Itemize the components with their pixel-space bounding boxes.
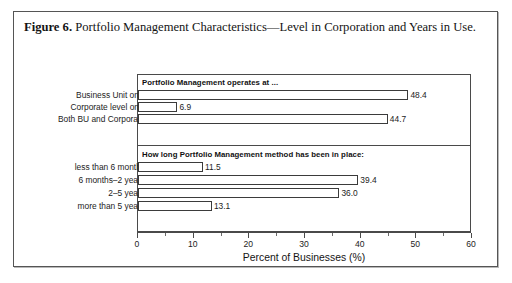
x-axis-tick-label: 30	[299, 239, 309, 250]
figure-caption-text: Portfolio Management Characteristics—Lev…	[72, 20, 476, 34]
x-axis-title: Percent of Businesses (%)	[137, 252, 471, 263]
x-axis-tick-label: 10	[188, 239, 198, 250]
x-axis-tick-major	[415, 233, 416, 238]
figure-frame: Figure 6. Portfolio Management Character…	[13, 11, 498, 267]
bar-value-label: 6.9	[179, 102, 191, 112]
x-axis-tick-label: 50	[411, 239, 421, 250]
bar	[138, 175, 358, 185]
category-label: Corporate level only	[0, 102, 145, 112]
category-label: Business Unit only	[0, 90, 145, 100]
bar	[138, 162, 203, 172]
figure-number: Figure 6.	[24, 20, 72, 34]
bar	[138, 201, 212, 211]
x-axis-tick-major	[137, 233, 138, 238]
x-axis-tick-major	[248, 233, 249, 238]
bar-value-label: 48.4	[410, 90, 426, 100]
bar-chart: Portfolio Management operates at ... How…	[14, 50, 499, 266]
bar-value-label: 36.0	[341, 188, 357, 198]
bar-value-label: 39.4	[360, 175, 376, 185]
x-axis-tick-minor	[165, 233, 166, 236]
x-axis-tick-label: 40	[355, 239, 365, 250]
bar-value-label: 13.1	[214, 201, 230, 211]
category-label: Both BU and Corporate	[0, 114, 145, 124]
category-label: 6 months–2 years	[0, 175, 145, 185]
x-axis-tick-major	[360, 233, 361, 238]
category-label: less than 6 months	[0, 162, 145, 172]
bar	[138, 102, 177, 112]
bar	[138, 114, 388, 124]
x-axis-tick-label: 20	[244, 239, 254, 250]
x-axis-tick-major	[193, 233, 194, 238]
x-axis-tick-label: 60	[466, 239, 476, 250]
bar	[138, 188, 339, 198]
x-axis-tick-minor	[388, 233, 389, 236]
x-axis-tick-minor	[276, 233, 277, 236]
x-axis-tick-minor	[221, 233, 222, 236]
panel-heading-duration: How long Portfolio Management method has…	[142, 150, 364, 159]
x-axis-tick-minor	[332, 233, 333, 236]
category-label: 2–5 years	[0, 188, 145, 198]
x-axis-tick-minor	[443, 233, 444, 236]
x-axis-tick-major	[304, 233, 305, 238]
x-axis-tick-label: 0	[135, 239, 140, 250]
category-label: more than 5 years	[0, 201, 145, 211]
bar-value-label: 11.5	[205, 162, 221, 172]
x-axis-tick-major	[471, 233, 472, 238]
figure-caption: Figure 6. Portfolio Management Character…	[24, 19, 486, 35]
bar	[138, 90, 408, 100]
bar-value-label: 44.7	[390, 114, 406, 124]
panel-heading-level: Portfolio Management operates at ...	[142, 78, 278, 87]
